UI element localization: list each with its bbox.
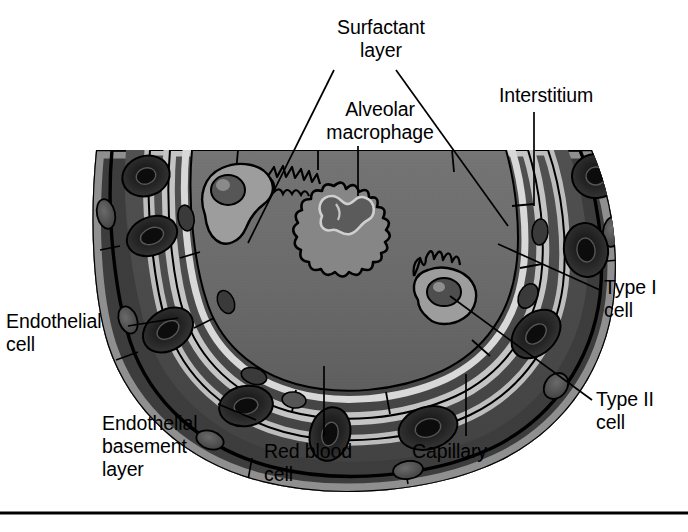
label-red-blood-cell: Red blood cell	[264, 440, 404, 486]
label-endothelial-basement-layer: Endothelial basement layer	[102, 412, 262, 481]
label-endothelial-cell: Endothelial cell	[6, 310, 146, 356]
label-capillary: Capillary	[412, 440, 542, 463]
label-surfactant-layer: Surfactant layer	[296, 16, 466, 62]
label-alveolar-macrophage: Alveolar macrophage	[290, 98, 470, 144]
label-type-ii-cell: Type II cell	[596, 388, 686, 434]
label-interstitium: Interstitium	[466, 84, 626, 107]
label-type-i-cell: Type I cell	[604, 276, 688, 322]
figure-page: Surfactant layer Alveolar macrophage Int…	[0, 0, 688, 532]
